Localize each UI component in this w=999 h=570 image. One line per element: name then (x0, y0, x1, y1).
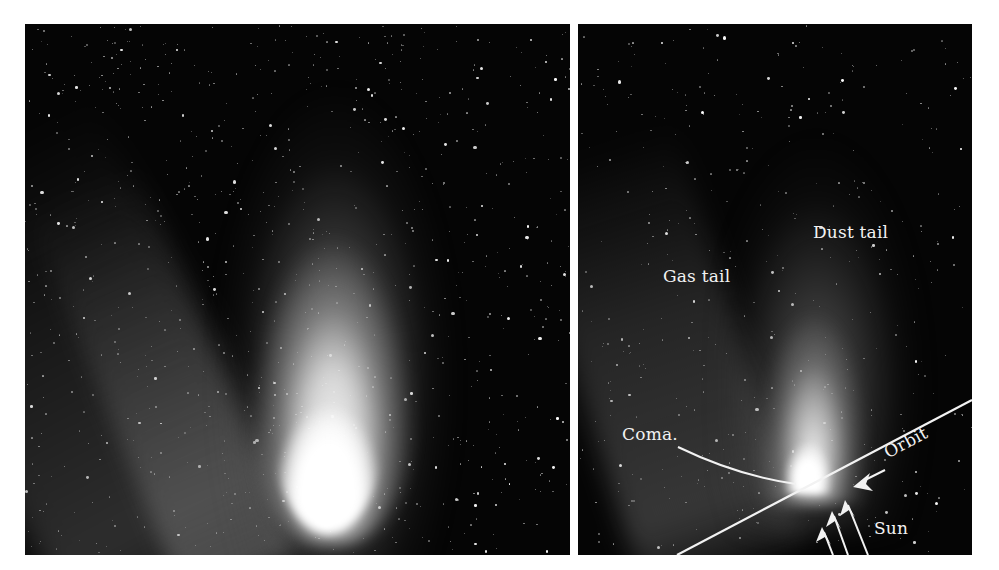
coma-label: Coma. (622, 424, 678, 444)
orbit-arrow-icon (853, 470, 885, 491)
dust-tail-label: Dust tail (813, 222, 888, 242)
coma-leader-line (678, 447, 796, 484)
gas-tail-label: Gas tail (663, 266, 730, 286)
annotation-lines (578, 24, 972, 555)
orbit-line (677, 400, 972, 555)
comet-photo-annotated: Gas tail Dust tail Coma. Orbit Sun (578, 24, 972, 555)
sun-arrows-icon (816, 500, 868, 555)
annotations: Gas tail Dust tail Coma. Orbit Sun (578, 24, 972, 555)
sun-label: Sun (874, 518, 908, 538)
star-field (25, 24, 570, 555)
comet-photo-left (25, 24, 570, 555)
